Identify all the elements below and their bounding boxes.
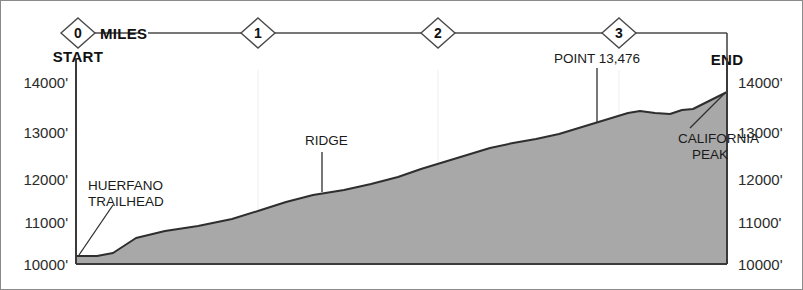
- y-tick-label: 14000': [738, 74, 783, 91]
- annotation-label-line1: HUERFANO: [88, 178, 163, 193]
- miles-axis-label: MILES: [100, 25, 147, 42]
- annotation-label: POINT 13,476: [554, 51, 640, 66]
- annotation-label: RIDGE: [305, 133, 348, 148]
- y-tick-label: 10000': [738, 256, 783, 273]
- mile-marker-label: 1: [254, 25, 262, 41]
- annotation-label-line1: CALIFORNIA: [678, 131, 759, 146]
- y-tick-label: 14000': [23, 74, 68, 91]
- annotation-label-line2: TRAILHEAD: [88, 194, 164, 209]
- y-tick-label: 11000': [738, 214, 782, 231]
- mile-marker-label: 2: [434, 25, 442, 41]
- y-tick-label: 12000': [23, 171, 68, 188]
- mile-marker-label: 3: [615, 25, 623, 41]
- y-tick-label: 10000': [23, 256, 68, 273]
- y-tick-label: 12000': [738, 171, 783, 188]
- y-tick-label: 13000': [23, 124, 68, 141]
- mile-marker-label: 0: [74, 25, 82, 41]
- elevation-profile-chart: MILES 0 1 2 3 START END: [0, 0, 803, 290]
- start-label: START: [53, 48, 103, 65]
- y-tick-label: 11000': [25, 214, 69, 231]
- elevation-profile-figure: MILES 0 1 2 3 START END: [0, 0, 803, 290]
- annotation-label-line2: PEAK: [692, 147, 728, 162]
